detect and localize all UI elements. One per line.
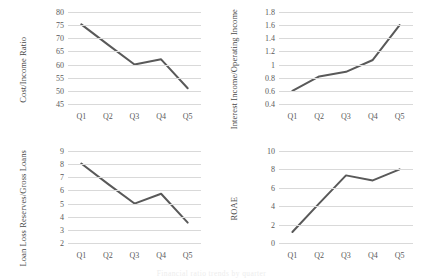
y-tick-label: 0.4 <box>265 100 275 109</box>
gridline <box>279 206 413 207</box>
x-tick-label: Q4 <box>148 251 175 265</box>
y-tick-label: 1 <box>271 60 275 69</box>
x-tick-label: Q3 <box>121 112 148 126</box>
x-axis-labels: Q1Q2Q3Q4Q5 <box>279 251 413 265</box>
gridline <box>279 12 413 13</box>
series-line <box>292 25 399 91</box>
y-tick-label: 8 <box>271 165 275 174</box>
y-tick-label: 6 <box>60 186 64 195</box>
x-tick-label: Q5 <box>174 112 201 126</box>
y-tick-label: 0 <box>271 239 275 248</box>
gridline <box>279 169 413 170</box>
gridline <box>68 190 201 191</box>
y-axis-label-text: Interest Income/Operating Income <box>229 9 240 129</box>
y-axis-label: Loan Loss Reserves/Gross Loans <box>0 139 46 278</box>
x-tick-label: Q2 <box>306 112 333 126</box>
y-axis-ticks: 23456789 <box>46 151 64 243</box>
y-tick-label: 1.2 <box>265 47 275 56</box>
x-tick-label: Q3 <box>333 251 360 265</box>
gridline <box>68 151 201 152</box>
gridline <box>279 78 413 79</box>
plot-area <box>279 12 413 104</box>
y-tick-label: 45 <box>56 100 64 109</box>
x-tick-label: Q4 <box>148 112 175 126</box>
y-tick-label: 65 <box>56 47 64 56</box>
x-tick-label: Q1 <box>279 112 306 126</box>
y-tick-label: 0.8 <box>265 73 275 82</box>
plot-wrapper: 0.40.60.811.21.41.61.8 Q1Q2Q3Q4Q5 <box>257 0 417 139</box>
y-tick-label: 2 <box>60 239 64 248</box>
x-tick-label: Q1 <box>279 251 306 265</box>
y-axis-ticks: 0.40.60.811.21.41.61.8 <box>257 12 275 104</box>
gridline <box>279 151 413 152</box>
x-tick-label: Q1 <box>68 251 95 265</box>
x-tick-label: Q5 <box>174 251 201 265</box>
chart-panel-loan-loss-reserves-gross-loans: Loan Loss Reserves/Gross Loans 23456789 … <box>0 139 211 278</box>
y-tick-label: 6 <box>271 183 275 192</box>
y-tick-label: 80 <box>56 8 64 17</box>
x-tick-label: Q4 <box>359 112 386 126</box>
plot-wrapper: 4550556065707580 Q1Q2Q3Q4Q5 <box>46 0 205 139</box>
x-axis-labels: Q1Q2Q3Q4Q5 <box>68 251 201 265</box>
plot-wrapper: 0246810 Q1Q2Q3Q4Q5 <box>257 139 417 278</box>
series-line <box>81 163 187 222</box>
gridline <box>68 51 201 52</box>
y-tick-label: 75 <box>56 21 64 30</box>
gridline <box>68 230 201 231</box>
x-tick-label: Q4 <box>359 251 386 265</box>
x-tick-label: Q1 <box>68 112 95 126</box>
gridline <box>279 51 413 52</box>
gridline <box>68 91 201 92</box>
y-axis-label: Interest Income/Operating Income <box>211 0 257 139</box>
y-axis-label-text: Cost/Income Ratio <box>18 37 29 103</box>
plot-area <box>68 12 201 104</box>
x-axis-labels: Q1Q2Q3Q4Q5 <box>68 112 201 126</box>
y-tick-label: 55 <box>56 73 64 82</box>
chart-panel-roae: ROAE 0246810 Q1Q2Q3Q4Q5 <box>211 139 423 278</box>
x-tick-label: Q3 <box>333 112 360 126</box>
y-axis-ticks: 0246810 <box>257 151 275 243</box>
gridline <box>279 188 413 189</box>
chart-panel-interest-income-operating-income: Interest Income/Operating Income 0.40.60… <box>211 0 423 139</box>
x-tick-label: Q5 <box>386 112 413 126</box>
figure-caption: Financial ratio trends by quarter <box>0 266 423 278</box>
y-tick-label: 0.6 <box>265 86 275 95</box>
x-tick-label: Q2 <box>95 251 122 265</box>
y-axis-ticks: 4550556065707580 <box>46 12 64 104</box>
y-tick-label: 9 <box>60 147 64 156</box>
plot-area <box>68 151 201 243</box>
y-tick-label: 5 <box>60 199 64 208</box>
x-axis-labels: Q1Q2Q3Q4Q5 <box>279 112 413 126</box>
y-tick-label: 60 <box>56 60 64 69</box>
plot-area <box>279 151 413 243</box>
y-tick-label: 4 <box>271 202 275 211</box>
gridline <box>68 177 201 178</box>
plot-wrapper: 23456789 Q1Q2Q3Q4Q5 <box>46 139 205 278</box>
gridline <box>68 217 201 218</box>
line-series <box>279 151 413 243</box>
y-tick-label: 1.4 <box>265 34 275 43</box>
x-tick-label: Q2 <box>95 112 122 126</box>
series-line <box>292 169 399 232</box>
chart-grid: Cost/Income Ratio 4550556065707580 Q1Q2Q… <box>0 0 423 278</box>
gridline <box>68 65 201 66</box>
gridline <box>279 38 413 39</box>
gridline <box>68 38 201 39</box>
y-tick-label: 2 <box>271 220 275 229</box>
x-tick-label: Q3 <box>121 251 148 265</box>
gridline <box>68 243 201 244</box>
y-axis-label-text: Loan Loss Reserves/Gross Loans <box>18 150 29 267</box>
gridline <box>279 225 413 226</box>
gridline <box>68 78 201 79</box>
gridline <box>68 12 201 13</box>
gridline <box>68 164 201 165</box>
y-tick-label: 4 <box>60 212 64 221</box>
gridline <box>68 204 201 205</box>
x-tick-label: Q2 <box>306 251 333 265</box>
y-tick-label: 8 <box>60 160 64 169</box>
chart-panel-cost-income-ratio: Cost/Income Ratio 4550556065707580 Q1Q2Q… <box>0 0 211 139</box>
gridline <box>279 91 413 92</box>
gridline <box>68 104 201 105</box>
y-tick-label: 50 <box>56 86 64 95</box>
gridline <box>279 243 413 244</box>
